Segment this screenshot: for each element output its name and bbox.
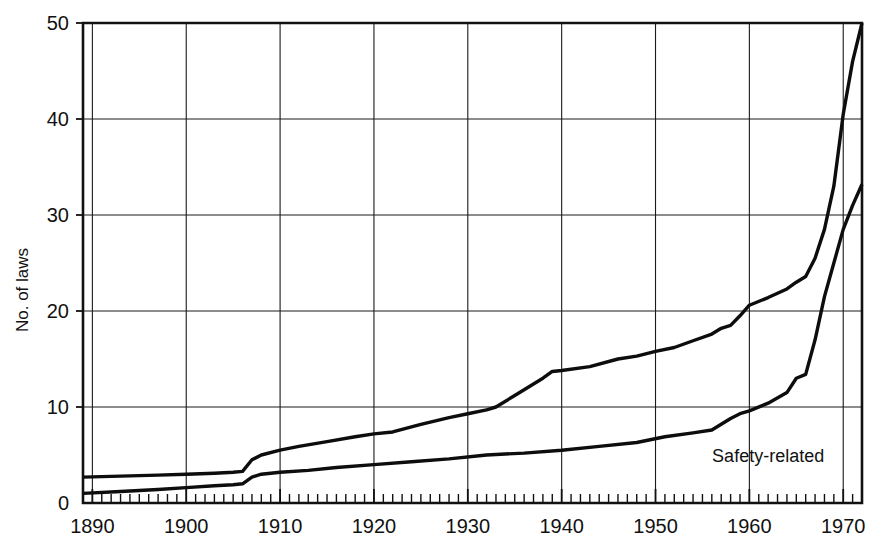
y-tick-label: 30 xyxy=(47,204,69,226)
y-tick-label: 50 xyxy=(47,12,69,34)
x-tick-label: 1910 xyxy=(258,515,303,537)
x-tick-label: 1960 xyxy=(727,515,772,537)
line-chart-canvas: 01020304050 1890190019101920193019401950… xyxy=(0,0,884,554)
x-tick-label: 1930 xyxy=(446,515,491,537)
chart-figure: 01020304050 1890190019101920193019401950… xyxy=(0,0,884,554)
x-tick-label: 1970 xyxy=(821,515,866,537)
y-tick-label: 10 xyxy=(47,396,69,418)
y-axis-title: No. of laws xyxy=(13,248,32,332)
x-tick-label: 1900 xyxy=(164,515,209,537)
x-axis-tick-labels: 189019001910192019301940195019601970 xyxy=(70,515,865,537)
x-tick-label: 1920 xyxy=(352,515,397,537)
y-tick-label: 0 xyxy=(58,492,69,514)
annotation-safety-related: Safety-related xyxy=(712,446,824,466)
chart-background xyxy=(0,0,884,554)
y-tick-label: 40 xyxy=(47,108,69,130)
x-tick-label: 1890 xyxy=(70,515,115,537)
x-tick-label: 1940 xyxy=(539,515,584,537)
y-tick-label: 20 xyxy=(47,300,69,322)
chart-annotations: Safety-related xyxy=(712,446,824,466)
x-tick-label: 1950 xyxy=(633,515,678,537)
